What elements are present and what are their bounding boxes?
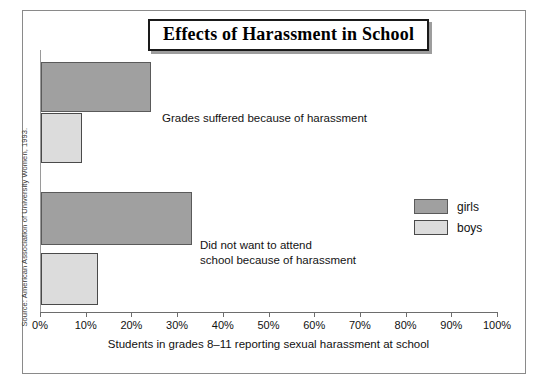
bar-boys-group-2 — [41, 253, 98, 305]
x-tick-label: 0% — [32, 319, 48, 331]
x-tick — [131, 312, 132, 317]
source-attribution: Source: American Association of Universi… — [20, 147, 29, 327]
category-label-did-not-want-to-attend: Did not want to attend school because of… — [200, 238, 356, 268]
x-tick — [360, 312, 361, 317]
chart-title-box: Effects of Harassment in School — [148, 19, 429, 51]
x-tick-label: 100% — [483, 319, 511, 331]
x-tick-label: 60% — [303, 319, 325, 331]
x-tick — [314, 312, 315, 317]
x-tick-label: 30% — [166, 319, 188, 331]
x-tick — [223, 312, 224, 317]
x-tick — [451, 312, 452, 317]
category-label-grades-suffered: Grades suffered because of harassment — [162, 111, 367, 126]
x-tick-label: 90% — [440, 319, 462, 331]
plot-area: 0%10%20%30%40%50%60%70%80%90%100% — [40, 50, 497, 312]
legend-swatch-boys-icon — [414, 220, 448, 235]
legend-label-boys: boys — [457, 221, 482, 235]
x-tick — [177, 312, 178, 317]
x-tick-label: 20% — [120, 319, 142, 331]
bar-boys-group-1 — [41, 113, 82, 163]
legend-item-girls[interactable]: girls — [414, 197, 482, 216]
x-tick — [497, 312, 498, 317]
x-tick-label: 70% — [349, 319, 371, 331]
bar-girls-group-1 — [41, 62, 151, 112]
x-tick — [406, 312, 407, 317]
bar-girls-group-2 — [41, 192, 192, 245]
x-tick-label: 80% — [395, 319, 417, 331]
x-tick — [269, 312, 270, 317]
page-title: Effects of Harassment in School — [163, 24, 414, 45]
legend: girls boys — [414, 197, 482, 239]
legend-label-girls: girls — [457, 200, 479, 214]
x-tick — [86, 312, 87, 317]
x-tick-label: 10% — [75, 319, 97, 331]
x-axis-title: Students in grades 8–11 reporting sexual… — [0, 338, 537, 350]
legend-item-boys[interactable]: boys — [414, 218, 482, 237]
x-tick-label: 40% — [212, 319, 234, 331]
x-tick-label: 50% — [257, 319, 279, 331]
legend-swatch-girls-icon — [414, 199, 448, 214]
x-tick — [40, 312, 41, 317]
